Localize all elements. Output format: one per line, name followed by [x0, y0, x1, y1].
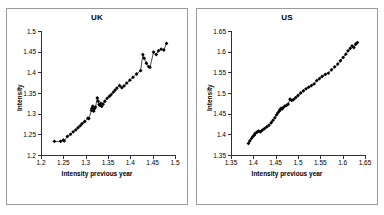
data-point	[141, 53, 145, 57]
data-point	[165, 42, 169, 46]
plot-area-uk: 1.21.251.31.351.41.451.51.21.251.31.351.…	[41, 31, 175, 155]
y-tick-label: 1.55	[199, 69, 226, 76]
y-tick-label: 1.35	[9, 90, 36, 97]
panel-us: US Intensity Intensity previous year 1.3…	[196, 8, 378, 205]
x-tick-label: 1.55	[308, 159, 332, 166]
series-line	[54, 43, 166, 141]
data-point	[145, 61, 149, 65]
y-tick-label: 1.45	[9, 48, 36, 55]
x-tick-label: 1.45	[264, 159, 288, 166]
x-tick-label: 1.35	[96, 159, 120, 166]
x-tick-label: 1.25	[51, 159, 75, 166]
panel-uk: UK Intensity Intensity previous year 1.2…	[6, 8, 188, 205]
figure-container: UK Intensity Intensity previous year 1.2…	[0, 0, 384, 215]
x-tick-label: 1.5	[286, 159, 310, 166]
data-point	[53, 139, 57, 143]
x-axis-label-us: Intensity previous year	[197, 170, 377, 177]
x-tick-label: 1.4	[241, 159, 265, 166]
x-tick-label: 1.4	[118, 159, 142, 166]
y-tick-label: 1.4	[199, 131, 226, 138]
x-tick-label: 1.2	[29, 159, 53, 166]
panel-title-us: US	[197, 13, 377, 23]
x-tick-label: 1.6	[331, 159, 355, 166]
series-layer	[41, 31, 175, 155]
panel-title-uk: UK	[7, 13, 187, 23]
x-tick-label: 1.3	[74, 159, 98, 166]
y-axis-label-uk: Intensity	[16, 84, 23, 111]
x-tick-label: 1.45	[141, 159, 165, 166]
y-axis-label-us: Intensity	[206, 84, 213, 111]
y-tick-label: 1.35	[199, 152, 226, 159]
y-tick-label: 1.6	[199, 48, 226, 55]
y-tick-label: 1.5	[199, 90, 226, 97]
y-tick-label: 1.45	[199, 110, 226, 117]
data-point	[95, 96, 99, 100]
x-tick-label: 1.35	[219, 159, 243, 166]
y-tick-label: 1.3	[9, 110, 36, 117]
y-tick-label: 1.4	[9, 69, 36, 76]
x-tick-label: 1.65	[353, 159, 377, 166]
plot-area-us: 1.351.41.451.51.551.61.651.351.41.451.51…	[231, 31, 365, 155]
y-tick-label: 1.65	[199, 28, 226, 35]
x-tick-label: 1.5	[163, 159, 187, 166]
y-tick-label: 1.5	[9, 28, 36, 35]
y-tick-label: 1.25	[9, 131, 36, 138]
series-layer	[231, 31, 365, 155]
x-axis-label-uk: Intensity previous year	[7, 170, 187, 177]
y-tick-label: 1.2	[9, 152, 36, 159]
